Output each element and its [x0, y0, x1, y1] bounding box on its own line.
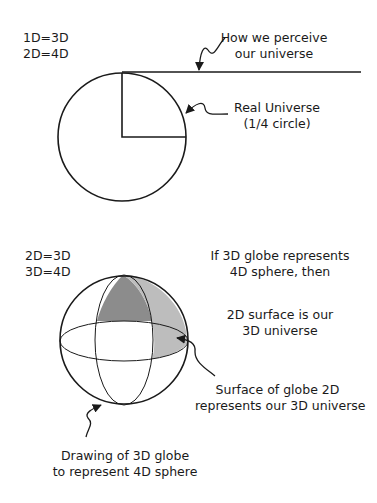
surface-globe-label: Surface of globe 2D represents our 3D un…: [195, 382, 360, 414]
drawing-label: Drawing of 3D globe to represent 4D sphe…: [50, 448, 200, 480]
drawing-line2: to represent 4D sphere: [50, 464, 200, 480]
equation-1d-3d: 1D=3D: [23, 30, 69, 46]
real-universe-line1: Real Universe: [232, 100, 322, 116]
drawing-line1: Drawing of 3D globe: [50, 448, 200, 464]
perceive-label: How we perceive our universe: [219, 30, 329, 62]
equation-3d-4d: 3D=4D: [25, 264, 71, 280]
top-equations: 1D=3D 2D=4D: [23, 30, 69, 62]
equation-2d-4d: 2D=4D: [23, 46, 69, 62]
surface-globe-line2: represents our 3D universe: [195, 398, 360, 414]
surface-is-label: 2D surface is our 3D universe: [220, 307, 340, 339]
drawing-arrow: [86, 405, 101, 437]
surface-is-line1: 2D surface is our: [220, 307, 340, 323]
equation-2d-3d: 2D=3D: [25, 248, 71, 264]
if-globe-line2: 4D sphere, then: [205, 264, 355, 280]
quarter-circle-radii: [122, 73, 186, 137]
real-universe-line2: (1/4 circle): [232, 116, 322, 132]
if-globe-label: If 3D globe represents 4D sphere, then: [205, 248, 355, 280]
perceive-label-line1: How we perceive: [219, 30, 329, 46]
surface-is-line2: 3D universe: [220, 323, 340, 339]
globe-diagram: [60, 275, 215, 437]
perceive-label-line2: our universe: [219, 46, 329, 62]
if-globe-line1: If 3D globe represents: [205, 248, 355, 264]
real-universe-label: Real Universe (1/4 circle): [232, 100, 322, 132]
surface-globe-line1: Surface of globe 2D: [195, 382, 360, 398]
real-universe-arrow: [186, 103, 228, 114]
bottom-equations: 2D=3D 3D=4D: [25, 248, 71, 280]
